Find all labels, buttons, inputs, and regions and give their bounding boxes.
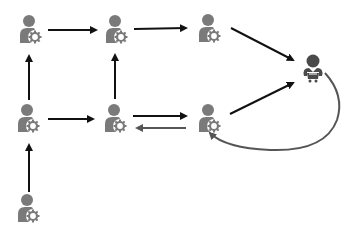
user-gear-icon [105, 104, 127, 133]
node-customer [304, 55, 323, 83]
edges [29, 28, 339, 192]
node-n2 [106, 15, 128, 44]
node-n5 [105, 104, 127, 133]
node-n3 [199, 14, 221, 43]
node-n6 [199, 104, 221, 133]
node-n4 [18, 104, 40, 133]
edge-n6-c1 [230, 83, 293, 114]
user-gear-icon [18, 104, 40, 133]
user-gear-icon [199, 14, 221, 43]
user-gear-icon [199, 104, 221, 133]
node-n7 [18, 194, 40, 223]
edge-c1-n6-curved [210, 73, 339, 150]
user-gear-icon [106, 15, 128, 44]
node-n1 [20, 15, 42, 44]
process-flow-diagram [0, 0, 351, 236]
customer-cart-icon [304, 55, 323, 83]
user-gear-icon [18, 194, 40, 223]
user-gear-icon [20, 15, 42, 44]
edge-n3-c1 [231, 28, 293, 60]
edge-n2-n3 [134, 28, 186, 29]
